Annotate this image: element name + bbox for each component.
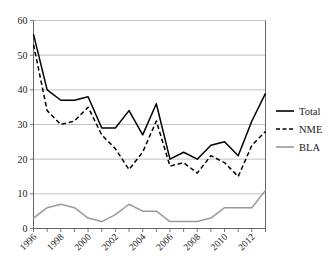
x-tick-marks-group: [34, 229, 266, 233]
y-tick-label-60: 60: [18, 15, 28, 26]
legend: Total NME BLA: [276, 106, 322, 153]
y-tick-label-50: 50: [18, 50, 28, 61]
line-chart: 0102030405060 19961998200020022004200620…: [0, 0, 333, 265]
series-line-nme: [34, 45, 266, 177]
x-tick-label-2000: 2000: [72, 232, 93, 253]
x-tick-label-2002: 2002: [100, 232, 121, 253]
x-tick-label-2004: 2004: [127, 232, 148, 253]
x-tick-label-2006: 2006: [154, 232, 175, 253]
x-tick-label-1998: 1998: [45, 232, 66, 253]
y-tick-label-20: 20: [18, 154, 28, 165]
x-tick-labels-group: 199619982000200220042006200820102012: [18, 232, 257, 253]
y-tick-label-30: 30: [18, 119, 28, 130]
y-tick-label-0: 0: [23, 223, 28, 234]
series-line-bla: [34, 190, 266, 221]
chart-canvas: 0102030405060 19961998200020022004200620…: [0, 0, 333, 265]
legend-label-total: Total: [299, 106, 321, 117]
series-line-total: [34, 34, 266, 159]
chart-figure: 0102030405060 19961998200020022004200620…: [0, 0, 333, 265]
x-tick-label-2010: 2010: [209, 232, 230, 253]
x-tick-label-2008: 2008: [182, 232, 203, 253]
x-tick-label-2012: 2012: [236, 232, 257, 253]
y-tick-label-40: 40: [18, 84, 28, 95]
y-tick-labels-group: 0102030405060: [18, 15, 28, 234]
legend-label-nme: NME: [299, 124, 322, 135]
y-tick-marks-group: [30, 21, 34, 229]
x-tick-label-1996: 1996: [18, 232, 39, 253]
legend-label-bla: BLA: [299, 142, 320, 153]
y-tick-label-10: 10: [18, 188, 28, 199]
